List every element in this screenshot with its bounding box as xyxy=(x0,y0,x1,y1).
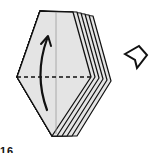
origami-diagram xyxy=(0,0,160,153)
turn-over-symbol-icon xyxy=(125,46,147,68)
step-caption: 16 xyxy=(0,146,160,153)
